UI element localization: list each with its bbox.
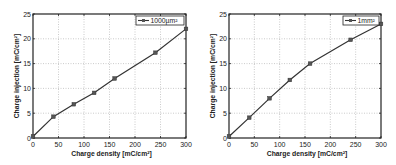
data-point-marker [227, 135, 231, 139]
data-point-marker [247, 116, 251, 120]
y-tick-label: 0 [27, 135, 31, 142]
chart-right: 0501001502002503000510152025Charge densi… [196, 0, 394, 165]
x-tick-label: 0 [227, 141, 231, 148]
data-point-marker [92, 91, 96, 95]
x-tick-label: 150 [104, 141, 116, 148]
data-point-marker [52, 115, 56, 119]
data-point-marker [349, 38, 353, 42]
y-tick-label: 15 [23, 60, 31, 67]
y-tick-label: 15 [219, 60, 227, 67]
data-point-marker [31, 135, 35, 139]
legend-marker-icon [142, 19, 145, 22]
x-tick-label: 300 [180, 141, 192, 148]
legend-label: 1000µm² [151, 17, 179, 25]
x-tick-label: 50 [55, 141, 63, 148]
line-chart-1mm2: 0501001502002503000510152025Charge densi… [196, 0, 396, 165]
x-tick-label: 300 [375, 141, 387, 148]
y-axis-label: Charge injection [mC/cm²] [209, 34, 217, 119]
chart-left: 0501001502002503000510152025Charge densi… [0, 0, 198, 165]
ticks: 0501001502002503000510152025 [219, 11, 387, 149]
data-point-marker [72, 102, 76, 106]
x-tick-label: 0 [31, 141, 35, 148]
x-tick-label: 200 [324, 141, 336, 148]
legend: 1mm² [343, 16, 379, 25]
y-axis-label: Charge injection [mC/cm²] [13, 34, 21, 119]
x-tick-label: 100 [78, 141, 90, 148]
x-tick-label: 250 [155, 141, 167, 148]
y-tick-label: 10 [219, 85, 227, 92]
legend: 1000µm² [136, 16, 184, 25]
data-point-marker [308, 62, 312, 66]
x-tick-label: 100 [274, 141, 286, 148]
y-tick-label: 10 [23, 85, 31, 92]
x-axis-label: Charge density [mC/cm²] [71, 150, 151, 158]
data-point-marker [268, 97, 272, 101]
x-tick-label: 50 [250, 141, 258, 148]
grid [229, 14, 381, 138]
data-point-marker [288, 78, 292, 82]
y-tick-label: 25 [219, 11, 227, 18]
y-tick-label: 0 [223, 135, 227, 142]
legend-marker-icon [349, 19, 352, 22]
x-tick-label: 150 [299, 141, 311, 148]
data-point-marker [113, 77, 117, 81]
y-tick-label: 5 [223, 110, 227, 117]
line-chart-1000um2: 0501001502002503000510152025Charge densi… [0, 0, 198, 165]
x-tick-label: 200 [129, 141, 141, 148]
data-point-marker [154, 51, 158, 55]
ticks: 0501001502002503000510152025 [23, 11, 192, 149]
x-tick-label: 250 [350, 141, 362, 148]
y-tick-label: 20 [23, 35, 31, 42]
series-line [33, 29, 186, 137]
y-tick-label: 25 [23, 11, 31, 18]
legend-label: 1mm² [358, 17, 376, 24]
x-axis-label: Charge density [mC/cm²] [267, 150, 347, 158]
y-tick-label: 20 [219, 35, 227, 42]
data-point-marker [184, 27, 188, 31]
data-point-marker [379, 22, 383, 26]
y-tick-label: 5 [27, 110, 31, 117]
grid [33, 14, 186, 138]
